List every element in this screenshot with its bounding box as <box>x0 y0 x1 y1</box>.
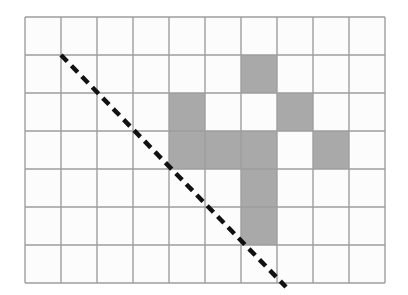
grid-cell <box>277 131 313 169</box>
grid-cell <box>133 17 169 55</box>
grid-cell <box>205 245 241 283</box>
grid-cell <box>205 169 241 207</box>
grid-cell <box>241 245 277 283</box>
shaded-grid-cell <box>241 131 277 169</box>
grid-cell <box>133 169 169 207</box>
shaded-grid-cell <box>241 55 277 93</box>
shaded-grid-cell <box>169 93 205 131</box>
grid-cell <box>61 131 97 169</box>
grid-cell <box>61 169 97 207</box>
grid-cell <box>169 245 205 283</box>
grid-cell <box>277 55 313 93</box>
grid-cell <box>97 207 133 245</box>
grid-cell <box>349 93 385 131</box>
grid-diagram <box>0 0 408 295</box>
shaded-grid-cell <box>241 169 277 207</box>
grid-cell <box>313 17 349 55</box>
grid-cell <box>349 131 385 169</box>
grid-cell <box>205 55 241 93</box>
shaded-grid-cell <box>241 207 277 245</box>
grid-cell <box>61 93 97 131</box>
grid-cell <box>133 245 169 283</box>
grid-cell <box>313 207 349 245</box>
grid-cell <box>25 55 61 93</box>
grid-cell <box>61 17 97 55</box>
grid-cell <box>277 169 313 207</box>
grid-cell <box>205 17 241 55</box>
grid-cell <box>277 245 313 283</box>
shaded-grid-cell <box>313 131 349 169</box>
grid-cell <box>97 245 133 283</box>
grid-cell <box>25 207 61 245</box>
grid-cell <box>97 17 133 55</box>
grid-cell <box>313 245 349 283</box>
grid-cell <box>25 93 61 131</box>
grid-cell <box>25 245 61 283</box>
grid-cell <box>349 245 385 283</box>
grid-cell <box>133 93 169 131</box>
grid-cell <box>349 169 385 207</box>
grid-cell <box>133 207 169 245</box>
shaded-grid-cell <box>169 131 205 169</box>
grid-cell <box>25 169 61 207</box>
grid-cell <box>133 55 169 93</box>
grid-cell <box>169 17 205 55</box>
grid-cell <box>61 207 97 245</box>
grid-cell <box>313 55 349 93</box>
figure-canvas <box>0 0 408 295</box>
grid-cell <box>349 17 385 55</box>
grid-cell <box>169 55 205 93</box>
grid-cell <box>241 93 277 131</box>
grid-cell <box>277 17 313 55</box>
grid-cell <box>205 93 241 131</box>
grid-cell <box>313 93 349 131</box>
grid-cell <box>97 131 133 169</box>
grid-cell <box>313 169 349 207</box>
grid-cell <box>349 207 385 245</box>
grid-cell <box>349 55 385 93</box>
grid-cell <box>61 245 97 283</box>
grid-cell <box>97 169 133 207</box>
grid-cell <box>25 131 61 169</box>
grid-cell <box>25 17 61 55</box>
grid-cell <box>241 17 277 55</box>
grid-cell <box>97 55 133 93</box>
shaded-grid-cell <box>205 131 241 169</box>
grid-cell <box>277 207 313 245</box>
shaded-grid-cell <box>277 93 313 131</box>
grid-cell <box>169 207 205 245</box>
grid-cell <box>205 207 241 245</box>
